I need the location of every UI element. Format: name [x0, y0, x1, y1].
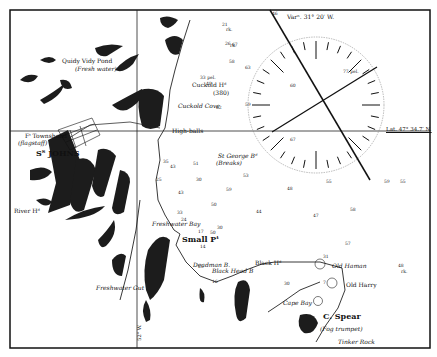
place-label: Quidy Vidy Pond [62, 58, 112, 64]
depth-sounding: 24 [181, 218, 187, 223]
depth-sounding: 33 pel. [200, 76, 216, 81]
place-label: (Fresh water) [75, 66, 117, 72]
depth-sounding: 48 [287, 187, 293, 192]
depth-sounding: 50 [210, 231, 216, 236]
compass-rose [248, 10, 384, 180]
place-label: Black Head B [212, 268, 253, 274]
place-label: Sᵀ JOHNS [36, 149, 80, 157]
depth-sounding: 33 [177, 211, 183, 216]
place-label: Cape Bay [283, 300, 312, 306]
depth-sounding: 30 [284, 282, 290, 287]
depth-sounding: 30 [217, 226, 223, 231]
depth-sounding: 31 [323, 255, 329, 260]
place-label: River Hᵈ [14, 208, 40, 214]
depth-sounding: 46 [272, 12, 278, 17]
depth-sounding: 49 [206, 82, 212, 87]
depth-sounding: 77 pel. [343, 70, 359, 75]
depth-sounding: 48 [398, 264, 404, 269]
place-label: Freshwater Bay [152, 221, 200, 227]
place-label: Black Hᵈ [255, 260, 281, 266]
place-label: C. Spear [323, 312, 361, 320]
place-label: Cuckold Cove [178, 103, 220, 109]
depth-sounding: 51 [193, 162, 199, 167]
place-label: (Breaks) [216, 160, 242, 166]
depth-sounding: 43 [170, 165, 176, 170]
depth-sounding: 59 [384, 180, 390, 185]
depth-sounding: 14 [200, 245, 206, 250]
place-label: Freshwater Gut [96, 285, 144, 291]
depth-sounding: 60 [290, 84, 296, 89]
depth-sounding: 17 [198, 230, 204, 235]
depth-sounding: 62 [216, 106, 222, 111]
depth-sounding: 7 [323, 281, 326, 286]
depth-sounding: 16 [212, 280, 218, 285]
depth-sounding: 58 [229, 60, 235, 65]
place-label: (Fog trumpet) [320, 326, 363, 332]
meridian-label: 52° W. [137, 324, 142, 340]
depth-sounding: 44 [256, 210, 262, 215]
depth-sounding: 43 [178, 191, 184, 196]
depth-sounding: 55 [326, 180, 332, 185]
magnetic-variation-label: Varⁿ. 31° 20′ W. [287, 14, 334, 20]
place-label: High-balls [172, 128, 203, 134]
depth-sounding: 67 [290, 138, 296, 143]
depth-sounding: 55 [400, 180, 406, 185]
place-label: Tinker Rock [338, 339, 375, 345]
nautical-chart [0, 0, 437, 357]
depth-sounding: 67 [232, 43, 238, 48]
depth-sounding: 57 [345, 242, 351, 247]
depth-sounding: 25 [198, 265, 204, 270]
depth-sounding: 59 [226, 188, 232, 193]
depth-sounding: 58 [350, 208, 356, 213]
depth-sounding: rk. [401, 270, 407, 275]
depth-sounding: 59 [245, 103, 251, 108]
depth-sounding: 63 [245, 66, 251, 71]
place-label: Old Harry [346, 282, 377, 288]
place-label: Small Pᵗ [182, 235, 219, 243]
depth-sounding: 35 [163, 160, 169, 165]
place-label: (380) [213, 90, 229, 96]
latitude-label: Lat. 47° 34.7′ N. [386, 127, 432, 133]
place-label: (flagstaff) [18, 140, 47, 146]
depth-sounding: 53 [243, 174, 249, 179]
depth-sounding: 30 [196, 178, 202, 183]
place-label: Old Haman [332, 263, 367, 269]
depth-sounding: 50 [211, 203, 217, 208]
depth-sounding: 47 [313, 214, 319, 219]
depth-sounding: 25 [156, 178, 162, 183]
depth-sounding: rk. [226, 28, 232, 33]
